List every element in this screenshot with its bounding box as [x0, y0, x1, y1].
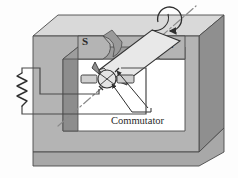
magnet-top-face — [33, 15, 224, 36]
figure-canvas: S N — [0, 0, 238, 178]
dc-motor-diagram: S N — [0, 0, 238, 178]
resistor-symbol — [17, 73, 27, 106]
shaft-left — [81, 75, 97, 83]
south-pole-label: S — [82, 35, 88, 47]
commutator-label: Commutator — [111, 115, 165, 126]
